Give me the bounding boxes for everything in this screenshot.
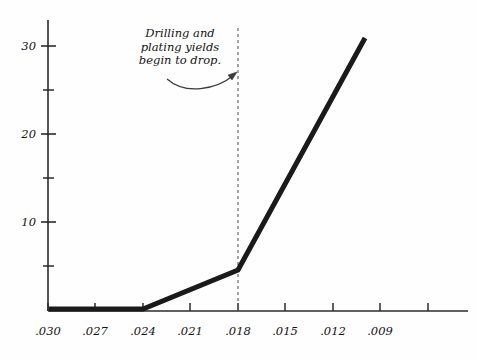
x-tick-label-018: .018 (216, 324, 260, 338)
annotation-line-3: begin to drop. (118, 54, 242, 68)
y-tick-label-20: 20 (2, 127, 36, 141)
y-tick-label-30: 30 (2, 39, 36, 53)
data-line-series (49, 38, 365, 309)
x-tick-label-015: .015 (263, 324, 307, 338)
x-tick-label-012: .012 (311, 324, 355, 338)
x-tick-label-027: .027 (73, 324, 117, 338)
annotation-line-2: plating yields (118, 41, 242, 55)
x-tick-label-021: .021 (168, 324, 212, 338)
x-tick-label-024: .024 (121, 324, 165, 338)
y-tick-label-10: 10 (2, 215, 36, 229)
x-tick-label-009: .009 (358, 324, 402, 338)
x-tick-label-030: .030 (26, 324, 70, 338)
chart-annotation: Drilling and plating yields begin to dro… (118, 27, 242, 68)
chart-container: 30 20 10 .030 .027 .024 .021 .018 .015 .… (0, 0, 479, 360)
annotation-line-1: Drilling and (118, 27, 242, 41)
annotation-arrow (167, 75, 234, 89)
